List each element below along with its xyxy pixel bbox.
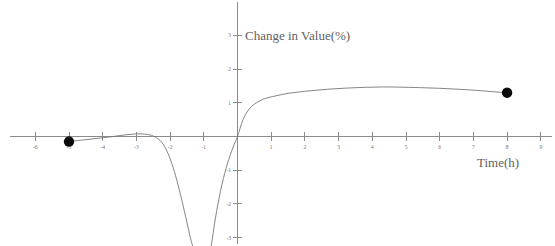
x-tick-label: 6 [438,144,441,150]
x-tick-label: 9 [539,144,542,150]
x-tick-label: 5 [405,144,408,150]
data-markers [64,87,513,146]
y-tick-label: 3 [228,32,231,38]
x-tick-label: -3 [134,144,139,150]
x-tick-label: -4 [100,144,105,150]
y-tick-label: 1 [228,100,231,106]
chart-figure: -6-5-4-3-2-1123456789 -3-2-1123 Change i… [0,0,555,246]
x-tick-label: -2 [168,144,173,150]
x-tick-label: 7 [472,144,475,150]
curve-right-branch [239,87,507,133]
x-tick-label: 8 [506,144,509,150]
y-tick-label: -1 [226,167,231,173]
marker-right-endpoint [502,87,512,97]
x-tick-label: 2 [304,144,307,150]
x-axis-ticks: -6-5-4-3-2-1123456789 [33,132,542,150]
y-tick-label: -3 [226,235,231,241]
x-tick-label: 3 [337,144,340,150]
chart-plot-area: -6-5-4-3-2-1123456789 -3-2-1123 Change i… [0,0,555,246]
y-tick-label: -2 [226,201,231,207]
marker-left-endpoint [64,136,74,146]
x-tick-label: 4 [371,144,374,150]
x-tick-label: -1 [202,144,207,150]
curve-left-branch [69,134,193,246]
curve-middle-branch [211,132,239,246]
x-tick-label: -6 [33,144,38,150]
y-tick-label: 2 [228,66,231,72]
x-tick-label: 1 [270,144,273,150]
x-axis-title: Time(h) [477,155,519,170]
y-axis-title: Change in Value(%) [245,28,350,43]
data-curves [69,87,507,246]
